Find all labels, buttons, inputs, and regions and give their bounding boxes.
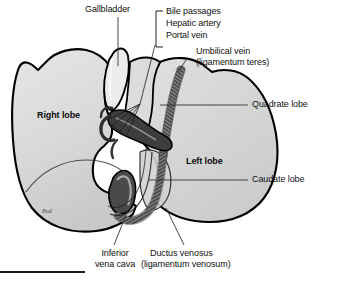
label-ligamentum-venosum: (ligamentum venosum) <box>141 259 231 270</box>
artist-signature: Bud <box>42 208 52 214</box>
liver-anatomy-figure: Gallbladder Bile passages Hepatic artery… <box>0 0 346 283</box>
label-inferior-vena-cava-line2: vena cava <box>80 259 150 270</box>
label-ligamentum-teres: (ligamentum teres) <box>196 57 269 68</box>
label-quadrate-lobe: Quadrate lobe <box>252 99 308 110</box>
liver-body <box>12 49 277 232</box>
label-ductus-venosus: Ductus venosus <box>150 248 213 259</box>
label-inferior-vena-cava-line1: Inferior <box>80 248 150 259</box>
liver-diagram-canvas <box>0 0 346 283</box>
label-right-lobe: Right lobe <box>37 110 80 121</box>
label-bracket <box>156 11 163 47</box>
label-portal-vein: Portal vein <box>166 30 207 41</box>
gallbladder-shape <box>104 49 129 111</box>
bile-duct-branch <box>112 140 117 158</box>
label-gallbladder: Gallbladder <box>85 4 130 15</box>
label-umbilical-vein: Umbilical vein <box>196 46 250 57</box>
label-caudate-lobe: Caudate lobe <box>252 174 304 185</box>
label-bile-passages: Bile passages <box>166 6 221 17</box>
label-hepatic-artery: Hepatic artery <box>166 18 221 29</box>
label-left-lobe: Left lobe <box>186 156 223 167</box>
